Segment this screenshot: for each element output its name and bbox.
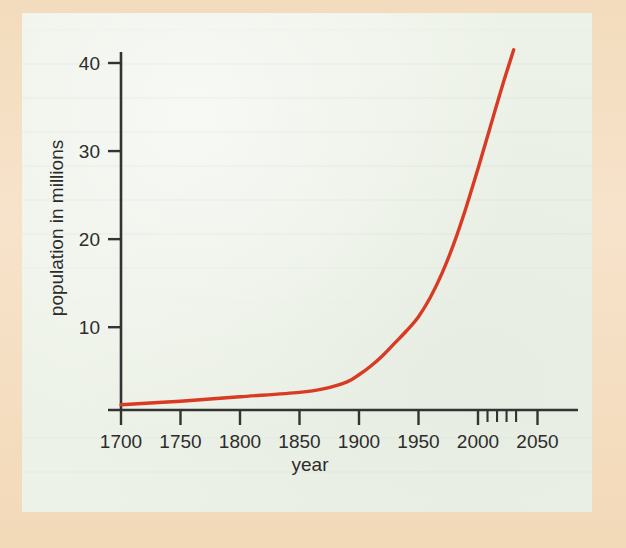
y-axis-tick-labels: 10203040 [79, 53, 100, 338]
x-tick-label-1700: 1700 [100, 431, 142, 452]
x-axis-minor-ticks [488, 410, 517, 422]
x-tick-label-2000: 2000 [457, 431, 499, 452]
x-tick-label-1900: 1900 [338, 431, 380, 452]
y-axis-ticks [108, 63, 121, 327]
y-axis-title: population in millions [46, 140, 67, 316]
x-axis-ticks [121, 410, 538, 425]
x-tick-label-2050: 2050 [516, 431, 558, 452]
x-tick-label-1950: 1950 [397, 431, 439, 452]
population-curve [121, 50, 514, 405]
x-axis-title: year [292, 454, 330, 475]
y-tick-label-10: 10 [79, 317, 100, 338]
y-tick-label-40: 40 [79, 53, 100, 74]
x-tick-label-1750: 1750 [159, 431, 201, 452]
x-tick-label-1800: 1800 [219, 431, 261, 452]
x-axis-tick-labels: 17001750180018501900195020002050 [100, 431, 559, 452]
x-tick-label-1850: 1850 [278, 431, 320, 452]
y-tick-label-20: 20 [79, 229, 100, 250]
y-tick-label-30: 30 [79, 141, 100, 162]
population-growth-chart: 10203040 1700175018001850190019502000205… [0, 0, 626, 548]
axes-group [108, 52, 578, 410]
